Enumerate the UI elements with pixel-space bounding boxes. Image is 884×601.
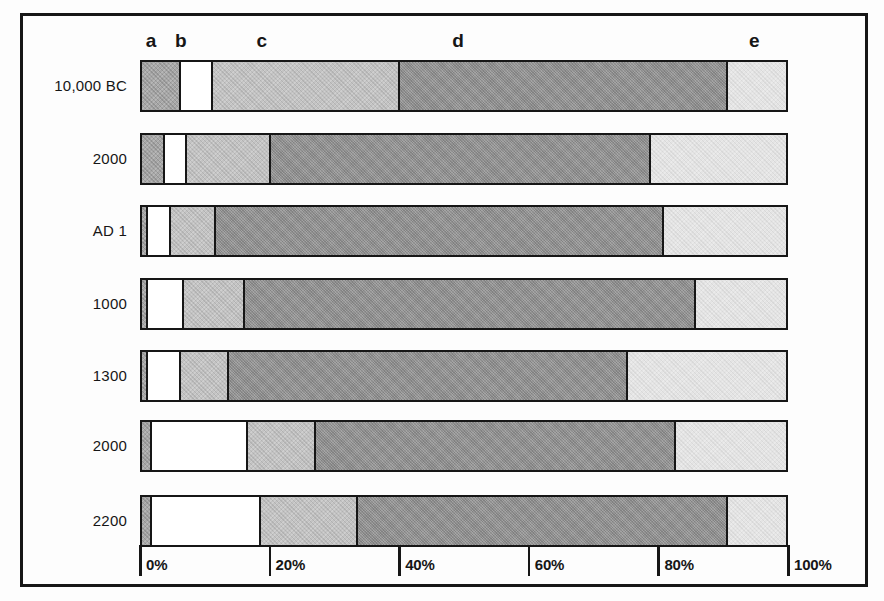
bar-segment-b [148, 352, 180, 400]
category-label: AD 1 [23, 205, 127, 257]
bar-segment-c [171, 207, 216, 255]
bar-segment-c [248, 422, 316, 470]
bar-row [140, 420, 788, 472]
bar-segment-b [148, 207, 171, 255]
segment-letter-label-b: b [175, 30, 187, 52]
bar-segment-a [142, 497, 152, 545]
bar-row [140, 60, 788, 112]
bar-segment-d [316, 422, 677, 470]
bar-segment-c [213, 62, 400, 110]
bar-segment-d [245, 280, 696, 328]
bar-segment-d [358, 497, 728, 545]
bar-segment-e [696, 280, 786, 328]
bar-segment-a [142, 135, 165, 183]
x-axis-tick-label: 0% [146, 556, 167, 573]
bar-segment-b [152, 422, 249, 470]
bar-segment-d [229, 352, 628, 400]
category-label: 2200 [23, 495, 127, 547]
bar-row [140, 495, 788, 547]
bar-segment-e [728, 62, 786, 110]
x-axis-tick [787, 545, 790, 576]
segment-letter-label-e: e [749, 30, 760, 52]
bar-row [140, 350, 788, 402]
bar-segment-e [728, 497, 786, 545]
bar-segment-b [148, 280, 183, 328]
bar-segment-b [181, 62, 213, 110]
x-axis-tick-label: 20% [276, 556, 305, 573]
segment-letter-label-c: c [257, 30, 268, 52]
x-axis-tick-label: 40% [405, 556, 434, 573]
category-label: 10,000 BC [23, 60, 127, 112]
bar-segment-b [152, 497, 261, 545]
x-axis-tick [528, 545, 531, 576]
bar-row [140, 278, 788, 330]
bar-row [140, 133, 788, 185]
bar-segment-c [261, 497, 358, 545]
bar-segment-d [271, 135, 651, 183]
category-label: 1300 [23, 350, 127, 402]
x-axis-tick-label: 60% [535, 556, 564, 573]
bar-segment-d [216, 207, 664, 255]
bar-segment-d [400, 62, 728, 110]
x-axis-tick-label: 80% [664, 556, 693, 573]
x-axis-tick [657, 545, 660, 576]
bar-segment-e [676, 422, 786, 470]
bar-segment-c [187, 135, 271, 183]
category-label: 1000 [23, 278, 127, 330]
category-label: 2000 [23, 420, 127, 472]
bar-segment-e [651, 135, 786, 183]
x-axis-tick [398, 545, 401, 576]
bar-segment-a [142, 62, 181, 110]
bar-row [140, 205, 788, 257]
category-label: 2000 [23, 133, 127, 185]
segment-letter-label-d: d [452, 30, 464, 52]
bar-segment-e [628, 352, 786, 400]
bar-segment-c [184, 280, 245, 328]
x-axis-tick-label: 100% [794, 556, 832, 573]
x-axis-tick [269, 545, 272, 576]
segment-letter-label-a: a [146, 30, 157, 52]
bar-segment-a [142, 422, 152, 470]
x-axis-tick [139, 545, 142, 576]
bar-segment-e [664, 207, 786, 255]
bar-segment-b [165, 135, 188, 183]
chart-frame: abcde10,000 BC2000AD 110001300200022000%… [20, 13, 868, 587]
bar-segment-c [181, 352, 229, 400]
